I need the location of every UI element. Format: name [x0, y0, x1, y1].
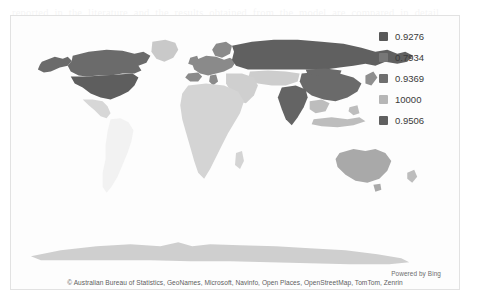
- region-alaska[interactable]: [38, 57, 72, 73]
- region-greenland[interactable]: [151, 40, 178, 62]
- region-europe[interactable]: [192, 56, 236, 76]
- region-india[interactable]: [278, 85, 308, 125]
- region-philippines[interactable]: [348, 105, 359, 115]
- map-copyright-label: © Australian Bureau of Statistics, GeoNa…: [11, 279, 459, 286]
- region-canada[interactable]: [68, 50, 151, 77]
- legend-item-label: 0.9276: [395, 32, 424, 42]
- region-scandinavia[interactable]: [212, 42, 232, 58]
- region-china[interactable]: [300, 72, 362, 102]
- region-africa[interactable]: [180, 84, 244, 179]
- legend-item-label: 0.9369: [395, 74, 424, 84]
- legend-item[interactable]: 0.9506: [379, 110, 451, 131]
- legend-swatch-icon: [379, 95, 388, 104]
- legend-item[interactable]: 10000: [379, 89, 451, 110]
- powered-by-bing-label: Powered by Bing: [11, 270, 459, 277]
- region-tasmania[interactable]: [373, 184, 381, 192]
- region-south-america[interactable]: [103, 118, 134, 192]
- region-new-zealand[interactable]: [407, 170, 417, 183]
- region-madagascar[interactable]: [235, 151, 244, 169]
- region-australia[interactable]: [336, 149, 392, 183]
- region-indonesia[interactable]: [312, 117, 366, 127]
- legend-item-label: 0.9506: [395, 116, 424, 126]
- region-iberia[interactable]: [185, 73, 202, 82]
- region-mexico[interactable]: [83, 99, 111, 118]
- region-antarctica[interactable]: [31, 242, 409, 264]
- region-united-states[interactable]: [71, 74, 139, 100]
- filled-map-visual[interactable]: 0.9276 0.7934 0.9369 10000 0.9506 Powere…: [10, 15, 460, 290]
- map-attribution: Powered by Bing © Australian Bureau of S…: [11, 270, 459, 286]
- legend-item[interactable]: 0.9276: [379, 26, 451, 47]
- legend-item-label: 10000: [395, 95, 421, 105]
- legend-swatch-icon: [379, 32, 388, 41]
- region-italy[interactable]: [209, 75, 218, 86]
- legend-item[interactable]: 0.9369: [379, 68, 451, 89]
- region-southeast-asia[interactable]: [310, 99, 330, 113]
- region-japan[interactable]: [365, 72, 377, 86]
- map-legend: 0.9276 0.7934 0.9369 10000 0.9506: [379, 26, 451, 131]
- legend-item[interactable]: 0.7934: [379, 47, 451, 68]
- region-mongolia[interactable]: [306, 69, 342, 76]
- legend-swatch-icon: [379, 53, 388, 62]
- legend-swatch-icon: [379, 116, 388, 125]
- legend-swatch-icon: [379, 74, 388, 83]
- legend-item-label: 0.7934: [395, 53, 424, 63]
